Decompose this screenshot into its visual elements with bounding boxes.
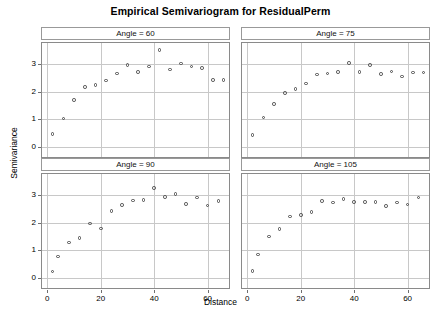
data-point xyxy=(390,70,394,74)
gridline-horizontal xyxy=(242,278,429,279)
data-point xyxy=(374,200,378,204)
data-point xyxy=(126,63,130,67)
gridline-horizontal xyxy=(42,223,229,224)
gridline-vertical xyxy=(301,174,302,288)
y-tick-mark xyxy=(38,119,41,120)
data-point xyxy=(368,63,372,67)
gridline-vertical xyxy=(354,43,355,157)
data-point xyxy=(336,70,340,74)
x-tick-mark xyxy=(354,290,355,293)
data-point xyxy=(283,91,287,95)
data-point xyxy=(142,198,146,202)
y-tick-mark xyxy=(38,92,41,93)
gridline-horizontal xyxy=(242,223,429,224)
data-point xyxy=(78,236,82,240)
panel-plot-area xyxy=(41,42,230,158)
y-tick-mark xyxy=(38,250,41,251)
y-tick-label: 2 xyxy=(16,88,36,96)
x-tick-label: 0 xyxy=(237,295,257,303)
semivariogram-chart: Empirical Semivariogram for ResidualPerm… xyxy=(0,0,441,313)
data-point xyxy=(251,269,255,273)
y-tick-label: 3 xyxy=(16,191,36,199)
data-point xyxy=(222,78,226,82)
data-point xyxy=(168,68,172,72)
data-point xyxy=(217,199,221,203)
gridline-vertical xyxy=(47,174,48,288)
data-point xyxy=(395,201,399,205)
y-tick-mark xyxy=(38,223,41,224)
data-point xyxy=(347,61,351,65)
data-point xyxy=(56,255,60,259)
data-point xyxy=(379,72,383,76)
x-tick-label: 20 xyxy=(291,295,311,303)
panel-plot-area xyxy=(241,42,430,158)
data-point xyxy=(158,48,162,52)
data-point xyxy=(358,70,362,74)
data-point xyxy=(51,132,55,136)
x-tick-label: 0 xyxy=(37,295,57,303)
data-point xyxy=(104,79,108,83)
x-axis-title: Distance xyxy=(0,297,441,307)
data-point xyxy=(288,215,292,219)
gridline-vertical xyxy=(354,174,355,288)
gridline-vertical xyxy=(47,43,48,157)
data-point xyxy=(94,83,98,87)
data-point xyxy=(384,204,388,208)
x-tick-label: 40 xyxy=(144,295,164,303)
x-tick-label: 60 xyxy=(398,295,418,303)
x-tick-mark xyxy=(154,290,155,293)
y-tick-label: 0 xyxy=(16,274,36,282)
panel-strip-label: Angle = 90 xyxy=(41,158,230,171)
gridline-horizontal xyxy=(42,278,229,279)
y-tick-mark xyxy=(38,278,41,279)
data-point xyxy=(251,133,255,137)
panel-strip-label: Angle = 60 xyxy=(41,27,230,40)
gridline-vertical xyxy=(101,43,102,157)
y-tick-mark xyxy=(38,147,41,148)
data-point xyxy=(51,270,55,274)
data-point xyxy=(200,66,204,70)
panel-strip-label: Angle = 75 xyxy=(241,27,430,40)
gridline-horizontal xyxy=(42,147,229,148)
data-point xyxy=(115,72,119,76)
gridline-horizontal xyxy=(42,64,229,65)
y-tick-mark xyxy=(38,195,41,196)
gridline-horizontal xyxy=(42,195,229,196)
data-point xyxy=(422,71,426,75)
data-point xyxy=(147,65,151,69)
gridline-vertical xyxy=(247,174,248,288)
data-point xyxy=(67,241,71,245)
data-point xyxy=(179,62,183,66)
data-point xyxy=(315,73,319,77)
y-tick-label: 1 xyxy=(16,115,36,123)
data-point xyxy=(88,222,92,226)
data-point xyxy=(320,199,324,203)
data-point xyxy=(331,201,335,205)
gridline-horizontal xyxy=(42,92,229,93)
gridline-horizontal xyxy=(242,195,429,196)
x-tick-mark xyxy=(101,290,102,293)
data-point xyxy=(310,210,314,214)
gridline-horizontal xyxy=(42,119,229,120)
data-point xyxy=(163,195,167,199)
data-point xyxy=(417,196,421,200)
gridline-vertical xyxy=(101,174,102,288)
data-point xyxy=(342,197,346,201)
data-point xyxy=(110,209,114,213)
gridline-vertical xyxy=(208,174,209,288)
data-point xyxy=(83,85,87,89)
panel-angle-105: Angle = 105 xyxy=(241,158,430,289)
data-point xyxy=(120,203,124,207)
x-tick-mark xyxy=(301,290,302,293)
panel-plot-area xyxy=(241,173,430,289)
gridline-horizontal xyxy=(42,250,229,251)
data-point xyxy=(304,82,308,86)
panel-angle-90: Angle = 90 xyxy=(41,158,230,289)
gridline-vertical xyxy=(408,174,409,288)
y-tick-label: 2 xyxy=(16,219,36,227)
data-point xyxy=(411,71,415,75)
panel-angle-60: Angle = 60 xyxy=(41,27,230,158)
data-point xyxy=(400,75,404,79)
data-point xyxy=(131,199,135,203)
data-point xyxy=(363,200,367,204)
